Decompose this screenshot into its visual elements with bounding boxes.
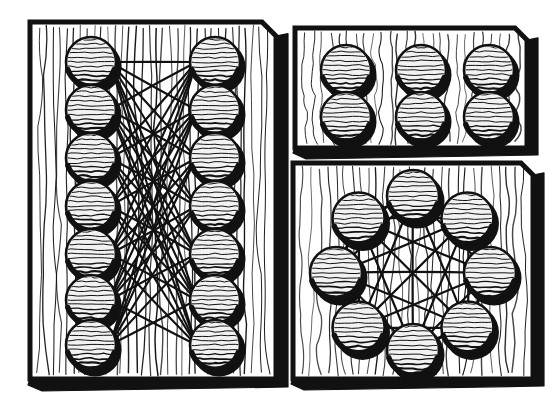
- bottom-right-panel: [291, 163, 544, 390]
- hatch-line: [389, 364, 437, 365]
- illustration-svg: [0, 0, 558, 416]
- top-right-panel-spheres: [319, 45, 520, 149]
- hatch-line: [335, 232, 383, 233]
- hatch-line: [192, 219, 238, 220]
- top-right-panel: [293, 28, 538, 159]
- illustration-canvas: [0, 0, 558, 416]
- hatch-line: [466, 83, 512, 85]
- left-panel: [28, 22, 288, 391]
